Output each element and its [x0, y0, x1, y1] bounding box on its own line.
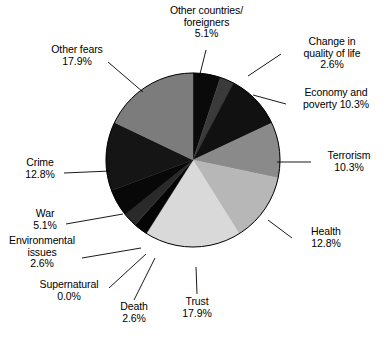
- leader-line-supernatural: [109, 254, 146, 288]
- slice-label-war: War 5.1%: [23, 208, 67, 231]
- leader-line-economy: [253, 95, 286, 104]
- slice-label-health: Health 12.8%: [295, 226, 357, 249]
- slice-label-trust: Trust 17.9%: [166, 296, 228, 319]
- leader-line-quality-of-life: [248, 54, 281, 76]
- slice-label-environmental: Environmental issues 2.6%: [2, 235, 82, 270]
- leader-line-health: [268, 220, 292, 238]
- leader-line-trust: [196, 267, 197, 294]
- leader-line-crime: [64, 171, 110, 173]
- slice-label-other-countries: Other countries/ foreigners 5.1%: [148, 5, 265, 40]
- pie-chart-figure: Other countries/ foreigners 5.1% Change …: [0, 0, 387, 341]
- slice-label-quality-of-life: Change in quality of life 2.6%: [283, 36, 381, 71]
- leader-line-death: [134, 258, 155, 300]
- leader-line-other-countries: [199, 50, 206, 78]
- leader-line-environmental: [82, 248, 141, 258]
- slice-label-other-fears: Other fears 17.9%: [38, 44, 116, 67]
- slice-label-economy: Economy and poverty 10.3%: [287, 87, 385, 110]
- slice-label-supernatural: Supernatural 0.0%: [27, 279, 111, 302]
- slice-label-death: Death 2.6%: [104, 301, 164, 324]
- slice-label-terrorism: Terrorism 10.3%: [313, 150, 385, 173]
- leader-line-war: [66, 214, 123, 224]
- slice-label-crime: Crime 12.8%: [15, 157, 65, 180]
